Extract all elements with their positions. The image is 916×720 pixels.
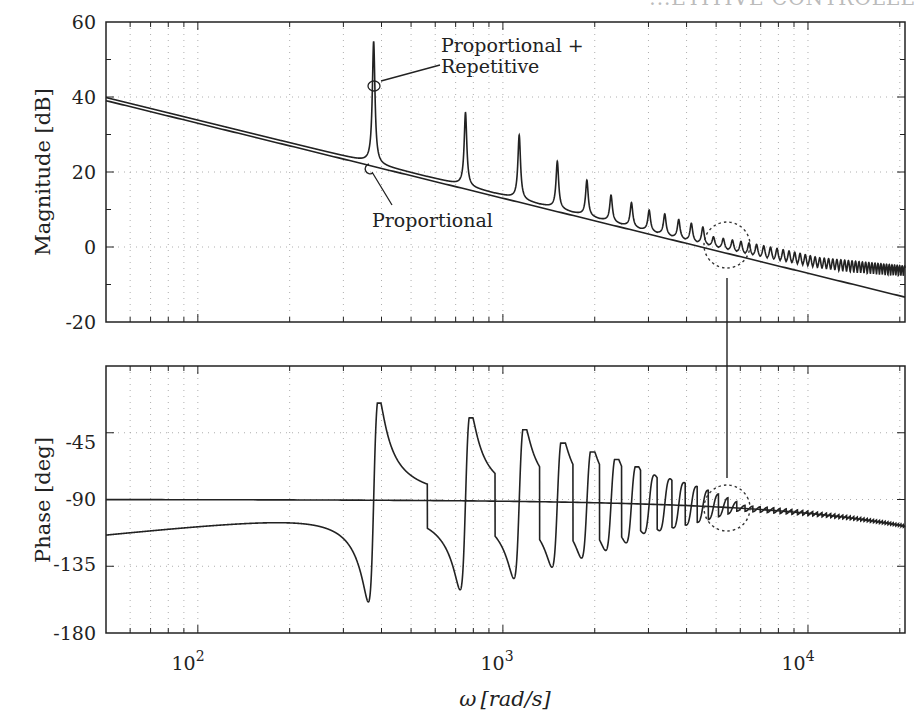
axis-ticks	[106, 22, 905, 633]
phase-tick-neg90: -90	[65, 488, 96, 510]
phase-tick-neg135: -135	[53, 553, 96, 575]
phase-curves	[106, 403, 905, 602]
x-tick-1000: 103	[480, 648, 513, 674]
mag-tick-20: 20	[72, 161, 96, 183]
phase-proportional-repetitive-line	[106, 403, 905, 602]
phase-tick-neg45: -45	[65, 431, 96, 453]
bode-plot: 60 40 20 0 -20 -45 -90 -135 -180 102 103…	[0, 0, 916, 720]
x-tick-10000: 104	[781, 648, 814, 674]
phase-proportional-line	[106, 500, 905, 527]
magnitude-tick-labels: 60 40 20 0 -20	[65, 11, 96, 333]
mag-tick-neg20: -20	[65, 311, 96, 333]
annotation-proportional-repetitive-line2: Repetitive	[441, 55, 539, 77]
mag-tick-40: 40	[72, 86, 96, 108]
magnitude-proportional-line	[106, 101, 905, 297]
x-tick-labels: 102 103 104	[171, 648, 814, 674]
phase-axis-label: Phase [deg]	[31, 437, 55, 563]
x-tick-100: 102	[171, 648, 204, 674]
mag-tick-0: 0	[84, 236, 96, 258]
magnitude-zoom-circle	[704, 222, 750, 268]
annotations: Proportional + Repetitive Proportional	[365, 34, 750, 531]
phase-tick-neg180: -180	[53, 622, 96, 644]
annotation-proportional: Proportional	[372, 209, 493, 231]
annotation-proportional-repetitive-line1: Proportional +	[441, 34, 584, 56]
annotation-leader-pr	[381, 65, 440, 81]
magnitude-curves	[106, 41, 905, 297]
mag-tick-60: 60	[72, 11, 96, 33]
x-axis-label: ω[rad/s]	[459, 687, 551, 711]
phase-tick-labels: -45 -90 -135 -180	[53, 431, 96, 644]
magnitude-axis-label: Magnitude [dB]	[31, 88, 55, 255]
